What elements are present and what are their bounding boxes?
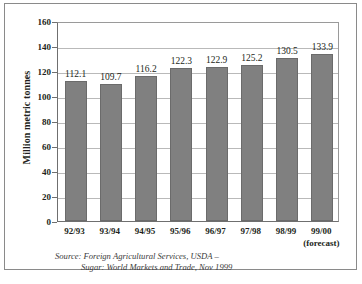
bar-value-label: 130.5 — [276, 46, 297, 56]
x-tick-label: 94/95 — [135, 226, 156, 236]
y-tick-mark — [52, 222, 57, 223]
source-note: Source: Foreign Agricultural Services, U… — [55, 251, 335, 273]
x-tick-label: 93/94 — [100, 226, 121, 236]
bar-value-label: 112.1 — [65, 69, 86, 79]
y-tick-label: 160 — [11, 17, 51, 27]
bar-slot: 125.2 — [234, 23, 269, 221]
bar — [241, 65, 263, 222]
bar-value-label: 133.9 — [312, 42, 333, 52]
y-tick-label: 80 — [11, 117, 51, 127]
source-line-2: Sugar: World Markets and Trade, Nov 1999 — [55, 262, 335, 273]
source-line-1: Source: Foreign Agricultural Services, U… — [55, 251, 335, 262]
bar — [206, 67, 228, 221]
bar — [170, 68, 192, 221]
bar — [100, 84, 122, 221]
x-tick-label: 99/00 — [311, 226, 332, 236]
x-tick-label: 92/93 — [64, 226, 85, 236]
bar-slot: 116.2 — [129, 23, 164, 221]
x-tick-sublabel: (forecast) — [303, 238, 339, 248]
bar — [276, 58, 298, 221]
x-tick-label: 98/99 — [276, 226, 297, 236]
bar-slot: 109.7 — [93, 23, 128, 221]
y-tick-label: 120 — [11, 67, 51, 77]
bar-value-label: 122.3 — [171, 56, 192, 66]
x-tick-label: 95/96 — [170, 226, 191, 236]
x-tick-label: 96/97 — [205, 226, 226, 236]
plot-area: 112.1109.7116.2122.3122.9125.2130.5133.9 — [57, 22, 339, 222]
bar-slot: 133.9 — [305, 23, 340, 221]
y-tick-label: 140 — [11, 42, 51, 52]
x-tick-label: 97/98 — [241, 226, 262, 236]
bar-slot: 112.1 — [58, 23, 93, 221]
bar-value-label: 122.9 — [206, 55, 227, 65]
bar-value-label: 125.2 — [241, 53, 262, 63]
bar-slot: 122.3 — [164, 23, 199, 221]
bar-value-label: 116.2 — [136, 64, 157, 74]
bar — [311, 54, 333, 221]
y-tick-label: 0 — [11, 217, 51, 227]
bar-slot: 122.9 — [199, 23, 234, 221]
bar-slot: 130.5 — [270, 23, 305, 221]
y-tick-label: 100 — [11, 92, 51, 102]
bar — [135, 76, 157, 221]
y-tick-label: 20 — [11, 192, 51, 202]
y-tick-label: 60 — [11, 142, 51, 152]
bar-value-label: 109.7 — [100, 72, 121, 82]
y-tick-label: 40 — [11, 167, 51, 177]
bar — [65, 81, 87, 221]
chart-figure: Million metric tonnes 020406080100120140… — [0, 0, 362, 284]
